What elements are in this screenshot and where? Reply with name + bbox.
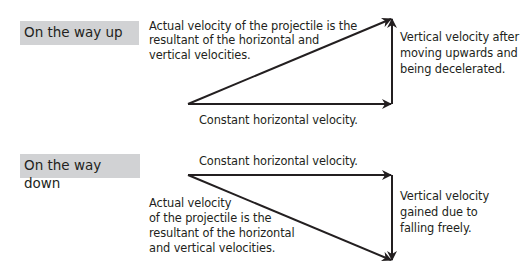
up-vertical-line-3: being decelerated. — [400, 61, 519, 77]
down-vertical-line-2: gained due to — [400, 204, 489, 220]
way-down-title: On the way down — [20, 154, 140, 178]
down-resultant-line-1: Actual velocity — [149, 196, 295, 211]
down-vertical-label: Vertical velocity gained due to falling … — [400, 188, 489, 236]
down-resultant-line-4: and vertical velocities. — [149, 241, 295, 256]
down-vertical-line-1: Vertical velocity — [400, 188, 489, 204]
up-resultant-line-1: Actual velocity of the projectile is the — [149, 19, 357, 33]
down-resultant-label: Actual velocity of the projectile is the… — [149, 196, 295, 256]
up-vertical-label: Vertical velocity after moving upwards a… — [400, 29, 519, 77]
down-resultant-line-3: resultant of the horizontal — [149, 226, 295, 241]
up-resultant-label: Actual velocity of the projectile is the… — [149, 19, 357, 62]
way-up-title: On the way up — [20, 21, 139, 45]
up-resultant-line-2: resultant of the horizontal and — [149, 33, 357, 47]
down-horizontal-label: Constant horizontal velocity. — [199, 154, 358, 168]
up-horizontal-label: Constant horizontal velocity. — [199, 113, 358, 127]
down-resultant-line-2: of the projectile is the — [149, 211, 295, 226]
down-vertical-line-3: falling freely. — [400, 220, 489, 236]
up-resultant-line-3: vertical velocities. — [149, 48, 357, 62]
up-vertical-line-2: moving upwards and — [400, 45, 519, 61]
up-vertical-line-1: Vertical velocity after — [400, 29, 519, 45]
